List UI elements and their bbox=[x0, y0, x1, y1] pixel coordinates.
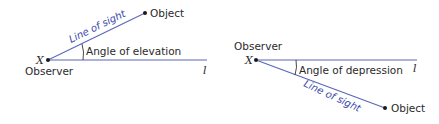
elevation-object-point bbox=[143, 11, 147, 15]
depression-angle-arc bbox=[295, 60, 297, 75]
depression-diagram: X Observer Object Angle of depression l … bbox=[234, 40, 425, 114]
elevation-observer-point bbox=[46, 58, 50, 62]
elevation-observer-label: Observer bbox=[25, 65, 74, 77]
depression-x-label: X bbox=[244, 54, 254, 67]
elevation-angle-label: Angle of elevation bbox=[86, 45, 181, 57]
depression-observer-point bbox=[254, 58, 258, 62]
depression-object-label: Object bbox=[391, 102, 425, 114]
elevation-object-label: Object bbox=[150, 7, 184, 19]
depression-observer-label: Observer bbox=[234, 40, 283, 52]
angles-diagram: X Observer Object Angle of elevation l L… bbox=[0, 0, 439, 124]
depression-angle-label: Angle of depression bbox=[299, 64, 403, 76]
depression-object-point bbox=[383, 106, 387, 110]
depression-l-label: l bbox=[413, 62, 417, 75]
elevation-angle-arc bbox=[82, 44, 84, 60]
elevation-l-label: l bbox=[203, 64, 207, 77]
elevation-diagram: X Observer Object Angle of elevation l L… bbox=[25, 7, 207, 77]
